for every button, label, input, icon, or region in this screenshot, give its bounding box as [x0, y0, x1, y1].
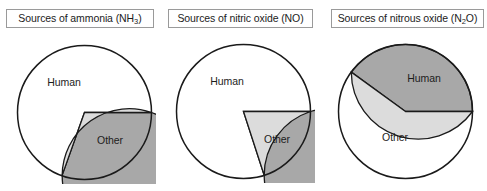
panel-title-ammonia-close: ): [138, 12, 141, 24]
panel-title-nitrous-oxide-text: Sources of nitrous oxide (N: [338, 12, 462, 24]
pie-label-other-ammonia: Other: [97, 134, 123, 146]
pie-label-human-nitric-oxide: Human: [210, 75, 244, 87]
pie-nitrous-oxide-svg: Human Other: [334, 40, 477, 183]
panel-ammonia: Sources of ammonia (NH3) Human Other: [4, 0, 159, 191]
panel-title-nitric-oxide-text: Sources of nitric oxide (NO): [177, 12, 303, 24]
panel-title-ammonia-text: Sources of ammonia (NH: [18, 12, 134, 24]
panel-title-nitric-oxide: Sources of nitric oxide (NO): [168, 9, 313, 28]
pie-nitric-oxide-svg: Human Other: [172, 40, 315, 183]
pie-chart-nitric-oxide: Human Other: [172, 40, 315, 183]
panel-title-nitrous-oxide: Sources of nitrous oxide (N2O): [331, 9, 484, 28]
pie-chart-nitrous-oxide: Human Other: [334, 40, 477, 183]
pie-label-human-nitrous-oxide: Human: [407, 72, 441, 84]
panel-nitrous-oxide: Sources of nitrous oxide (N2O) Human Oth…: [329, 0, 487, 191]
pie-ammonia-svg: Human Other: [13, 41, 156, 184]
panel-title-nitrous-oxide-close: O): [466, 12, 477, 24]
panel-nitric-oxide: Sources of nitric oxide (NO) Human Other: [166, 0, 321, 191]
panel-title-ammonia: Sources of ammonia (NH3): [6, 9, 154, 28]
pie-label-other-nitric-oxide: Other: [264, 133, 290, 145]
pie-label-human-ammonia: Human: [47, 76, 81, 88]
pie-chart-ammonia: Human Other: [13, 41, 156, 184]
figure-three-pie-charts: Sources of ammonia (NH3) Human Other Sou…: [0, 0, 487, 191]
pie-label-other-nitrous-oxide: Other: [382, 131, 408, 143]
